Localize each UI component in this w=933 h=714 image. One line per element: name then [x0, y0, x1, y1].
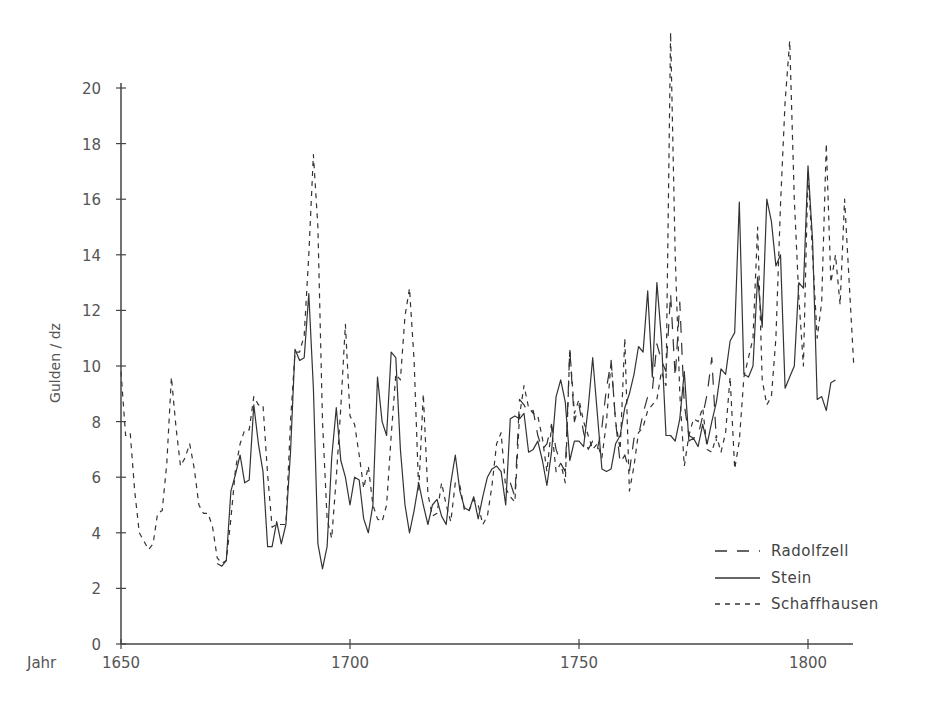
y-axis-title: Gulden / dz: [47, 323, 63, 403]
y-tick-label: 16: [82, 191, 101, 209]
y-tick-label: 10: [82, 358, 101, 376]
axes: 02468101214161820 1650170017501800 Gulde…: [26, 80, 853, 672]
price-line-chart: 02468101214161820 1650170017501800 Gulde…: [0, 0, 933, 714]
plot-series: [121, 32, 854, 569]
y-tick-label: 20: [82, 80, 101, 98]
x-tick-label: 1650: [102, 654, 140, 672]
legend-label-stein: Stein: [771, 569, 812, 587]
legend-label-radolfzell: Radolfzell: [771, 542, 849, 560]
y-tick-label: 14: [82, 247, 101, 265]
y-tick-label: 2: [91, 580, 101, 598]
y-tick-label: 8: [91, 414, 101, 432]
y-tick-label: 18: [82, 136, 101, 154]
y-tick-label: 0: [91, 636, 101, 654]
y-tick-label: 6: [91, 469, 101, 487]
x-tick-label: 1800: [789, 654, 827, 672]
series-line-schaffhausen: [121, 32, 854, 563]
x-axis-title: Jahr: [26, 654, 57, 672]
legend-item-stein: Stein: [715, 569, 812, 587]
legend: Radolfzell Stein Schaffhausen: [715, 542, 879, 613]
legend-item-schaffhausen: Schaffhausen: [715, 595, 879, 613]
y-ticks: 02468101214161820: [82, 80, 126, 654]
x-tick-label: 1750: [560, 654, 598, 672]
series-line-stein: [217, 166, 835, 569]
y-tick-label: 12: [82, 302, 101, 320]
legend-item-radolfzell: Radolfzell: [715, 542, 849, 560]
legend-label-schaffhausen: Schaffhausen: [771, 595, 879, 613]
y-tick-label: 4: [91, 525, 101, 543]
x-tick-label: 1700: [331, 654, 369, 672]
